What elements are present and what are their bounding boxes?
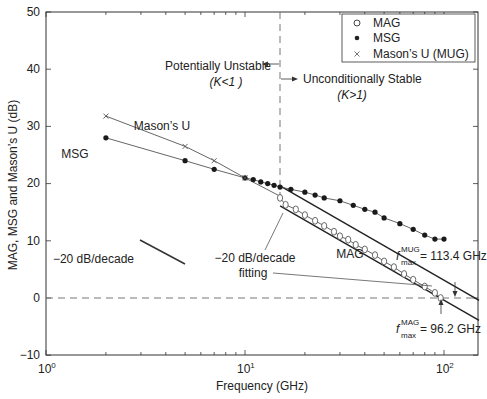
- stable-label: Unconditionally Stable: [303, 72, 422, 86]
- svg-text:MUG: MUG: [401, 245, 420, 254]
- y-tick-label: 20: [27, 176, 41, 190]
- stability-annotations: Potentially Unstable (K<1 ) Unconditiona…: [165, 59, 422, 102]
- legend-label-mag: MAG: [373, 16, 400, 30]
- data-point: [432, 289, 437, 296]
- fit-line: [280, 186, 479, 300]
- data-point: [302, 212, 307, 219]
- data-point: [397, 221, 402, 226]
- x-tick-label: 102: [436, 361, 454, 376]
- data-point: [277, 195, 282, 202]
- data-point: [103, 135, 108, 140]
- masons-u-label: Mason’s U: [134, 119, 190, 133]
- data-point: [441, 236, 446, 241]
- mag-label: MAG: [336, 247, 363, 261]
- data-point: [312, 192, 317, 197]
- x-tick-label: 101: [237, 361, 255, 376]
- data-point: [372, 210, 377, 215]
- unstable-label: Potentially Unstable: [165, 59, 271, 73]
- legend-label-mug: Mason’s U (MUG): [373, 47, 469, 61]
- data-point: [322, 195, 327, 200]
- legend-label-msg: MSG: [373, 31, 400, 45]
- data-point: [283, 201, 288, 208]
- data-point: [401, 271, 406, 278]
- gain-vs-frequency-chart: 50 40 30 20 10 0 −10 100 101 102 Frequen…: [0, 0, 487, 399]
- y-tick-labels: 50 40 30 20 10 0 −10: [20, 5, 41, 362]
- data-point: [432, 236, 437, 241]
- data-point: [346, 236, 351, 243]
- data-point: [331, 228, 336, 235]
- msg-label: MSG: [61, 147, 88, 161]
- y-tick-label: 10: [27, 234, 41, 248]
- x-axis-label: Frequency (GHz): [216, 379, 308, 393]
- slope-fit-pointer: [265, 213, 283, 250]
- x-tick-labels: 100 101 102: [38, 361, 454, 376]
- data-point: [288, 187, 293, 192]
- data-point: [251, 177, 256, 182]
- filled-circle-marker-icon: [355, 36, 360, 41]
- slope-reference-segment: [140, 240, 185, 264]
- data-point: [411, 227, 416, 232]
- y-axis-label: MAG, MSG and Mason’s U (dB): [6, 100, 20, 271]
- data-point: [322, 223, 327, 230]
- fmax-mag-annotation: f MAG max = 96.2 GHz: [396, 299, 481, 340]
- data-point: [293, 206, 298, 213]
- fit-line: [280, 206, 479, 320]
- y-tick-label: 0: [33, 291, 40, 305]
- series-line: [106, 138, 444, 239]
- slope-fit-label-2: fitting: [239, 266, 268, 280]
- arrow-right-icon: [292, 77, 298, 82]
- legend: MAG MSG Mason’s U (MUG): [342, 14, 475, 62]
- data-point: [391, 264, 396, 271]
- svg-text:max: max: [401, 331, 416, 340]
- data-point: [351, 203, 356, 208]
- data-point: [312, 217, 317, 224]
- data-point: [362, 207, 367, 212]
- svg-text:MAG: MAG: [401, 318, 419, 327]
- data-point: [258, 179, 263, 184]
- data-point: [183, 144, 188, 149]
- data-point: [302, 190, 307, 195]
- svg-text:= 96.2 GHz: = 96.2 GHz: [420, 322, 481, 336]
- data-point: [381, 215, 386, 220]
- fmax-mug-annotation: f MUG max = 113.4 GHz: [396, 245, 487, 297]
- x-tick-label: 100: [38, 361, 56, 376]
- data-point: [182, 158, 187, 163]
- data-point: [212, 158, 217, 163]
- svg-text:max: max: [401, 258, 416, 267]
- y-tick-label: −10: [20, 348, 41, 362]
- data-point: [422, 232, 427, 237]
- stable-condition-label: (K>1): [337, 88, 367, 102]
- slope-fit-label: −20 dB/decade: [214, 251, 295, 265]
- data-point: [103, 114, 108, 119]
- arrow-down-icon: [453, 291, 458, 297]
- data-point: [337, 198, 342, 203]
- unstable-condition-label: (K<1 ): [209, 75, 242, 89]
- data-point: [212, 167, 217, 172]
- y-tick-label: 50: [27, 5, 41, 19]
- data-point: [337, 233, 342, 240]
- y-tick-label: 30: [27, 119, 41, 133]
- data-point: [271, 183, 276, 188]
- svg-text:= 113.4 GHz: = 113.4 GHz: [420, 249, 487, 263]
- y-tick-label: 40: [27, 62, 41, 76]
- data-point: [372, 252, 377, 259]
- data-point: [422, 283, 427, 290]
- data-point: [277, 184, 282, 189]
- data-point: [381, 258, 386, 265]
- slope-reference-label: −20 dB/decade: [53, 252, 134, 266]
- data-point: [411, 276, 416, 283]
- data-point: [265, 181, 270, 186]
